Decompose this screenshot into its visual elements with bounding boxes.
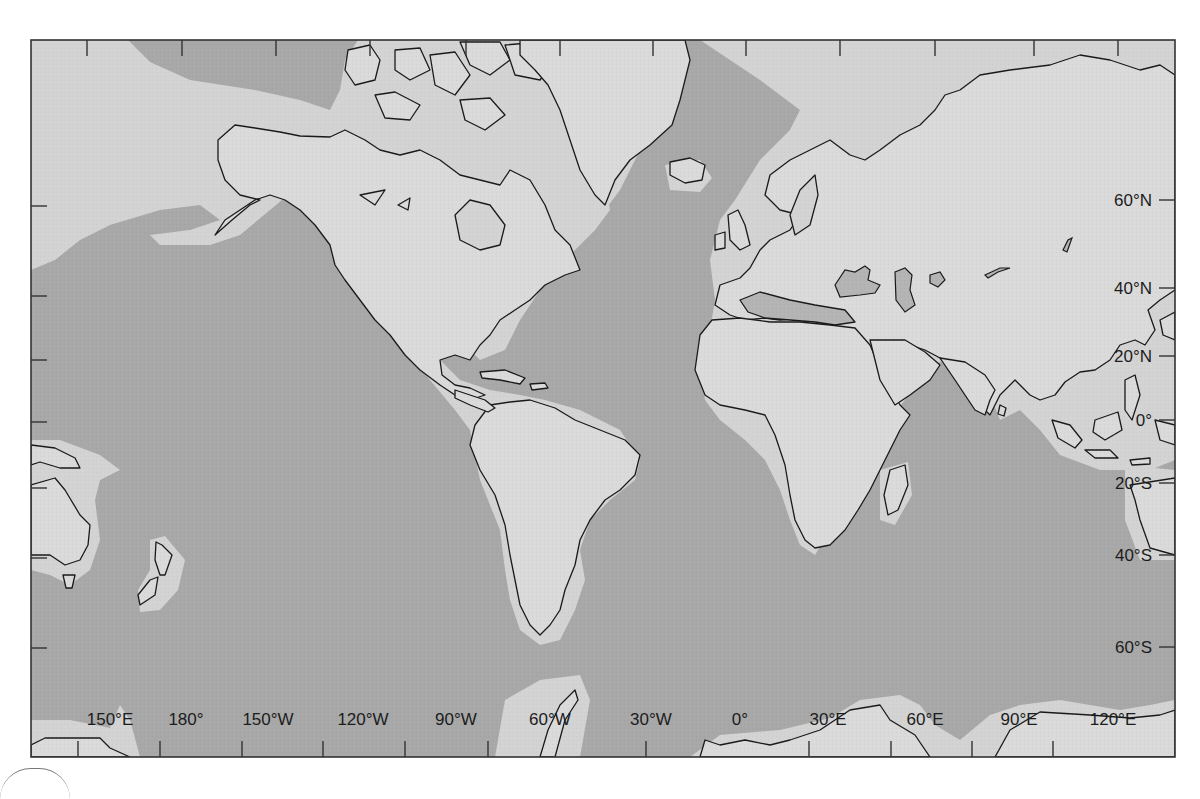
lat-label-40n: 40°N (1114, 280, 1152, 297)
lon-label-60e: 60°E (906, 711, 943, 728)
lon-label-150e: 150°E (87, 711, 134, 728)
lat-label-40s: 40°S (1115, 547, 1152, 564)
lon-label-60w: 60°W (529, 711, 571, 728)
lon-label-90e: 90°E (1000, 711, 1037, 728)
lon-label-120e: 120°E (1090, 711, 1137, 728)
lon-label-120w: 120°W (337, 711, 388, 728)
lon-label-90w: 90°W (435, 711, 477, 728)
lon-label-150w: 150°W (242, 711, 293, 728)
lat-label-60n: 60°N (1114, 192, 1152, 209)
lon-label-0: 0° (732, 711, 748, 728)
lat-label-0: 0° (1136, 412, 1152, 429)
lon-label-180: 180° (168, 711, 203, 728)
lat-label-20n: 20°N (1114, 348, 1152, 365)
lon-label-30e: 30°E (809, 711, 846, 728)
lat-label-60s: 60°S (1115, 639, 1152, 656)
lat-label-20s: 20°S (1115, 475, 1152, 492)
lon-label-30w: 30°W (630, 711, 672, 728)
